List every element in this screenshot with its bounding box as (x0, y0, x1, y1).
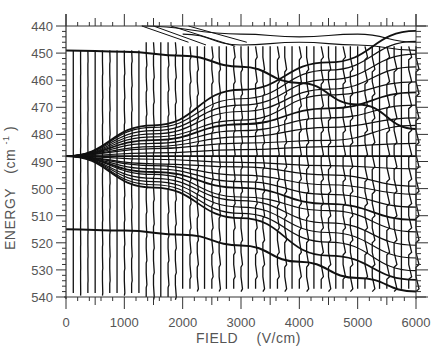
x-tick-labels: 0100020003000400050006000 (62, 315, 430, 330)
plot-traces (66, 26, 419, 300)
y-tick-label: 470 (31, 100, 53, 115)
vertical-trace (146, 42, 147, 297)
x-tick-label: 5000 (343, 315, 372, 330)
stark-energy-chart: 440450460470480490500510520530540 010002… (0, 0, 441, 355)
vertical-trace (154, 42, 155, 299)
y-tick-label: 490 (31, 155, 53, 170)
vertical-trace (241, 46, 243, 291)
vertical-trace (124, 50, 125, 295)
vertical-trace (263, 46, 265, 291)
y-tick-label: 530 (31, 263, 53, 278)
x-tick-label: 2000 (168, 315, 197, 330)
x-axis-title-unit: (V/cm) (257, 330, 301, 346)
y-tick-label: 540 (31, 290, 53, 305)
y-tick-label: 450 (31, 46, 53, 61)
vertical-trace (197, 46, 198, 291)
y-tick-label: 440 (31, 19, 53, 34)
vertical-trace (175, 42, 176, 299)
y-tick-label: 500 (31, 182, 53, 197)
x-tick-label: 3000 (227, 315, 256, 330)
x-tick-label: 0 (62, 315, 69, 330)
x-axis-title: FIELD (V/cm) (196, 330, 301, 346)
vertical-trace (409, 46, 412, 289)
vertical-trace (321, 46, 323, 289)
y-axis-title-close: ) (2, 126, 18, 131)
x-axis-title-main: FIELD (196, 330, 238, 346)
vertical-trace (343, 46, 345, 289)
vertical-trace (132, 50, 133, 293)
vertical-trace (219, 46, 220, 291)
y-tick-label: 520 (31, 236, 53, 251)
y-axis-title-main: ENERGY (2, 188, 18, 250)
y-axis-title-unit: (cm (2, 149, 18, 174)
x-tick-label: 4000 (285, 315, 314, 330)
y-tick-label: 460 (31, 73, 53, 88)
x-tick-label: 6000 (402, 315, 431, 330)
vertical-trace (350, 46, 352, 291)
y-tick-label: 510 (31, 209, 53, 224)
vertical-trace (234, 46, 235, 289)
y-tick-labels: 440450460470480490500510520530540 (31, 19, 53, 305)
vertical-trace (212, 46, 213, 289)
y-axis-title-exp: -1 (1, 136, 11, 145)
vertical-trace (277, 46, 279, 289)
x-tick-label: 1000 (110, 315, 139, 330)
level-515-curve (66, 229, 416, 291)
vertical-trace (372, 46, 375, 291)
vertical-trace (190, 46, 191, 289)
y-tick-label: 480 (31, 127, 53, 142)
y-axis-title: ENERGY (cm -1 ) (0, 126, 18, 250)
